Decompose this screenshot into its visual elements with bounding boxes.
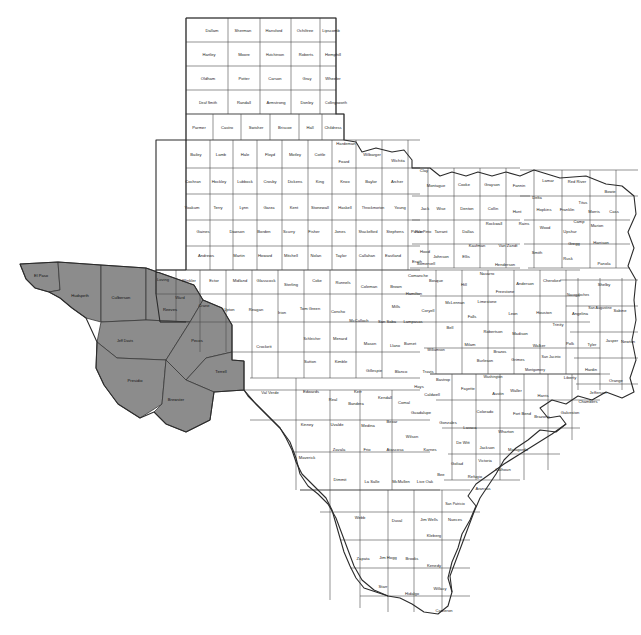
county-grid-lines: [156, 18, 638, 612]
map-vector-layer: [0, 0, 641, 635]
texas-county-map: DallamShermanHansfordOchiltreeLipscombHa…: [0, 0, 641, 635]
highlighted-counties-group: [20, 262, 244, 432]
county-shape-el-paso[interactable]: [20, 262, 60, 292]
bottom-edge-artifact: [10, 630, 310, 634]
rio-grande-path: [244, 390, 388, 596]
county-shape-culberson[interactable]: [101, 265, 146, 322]
